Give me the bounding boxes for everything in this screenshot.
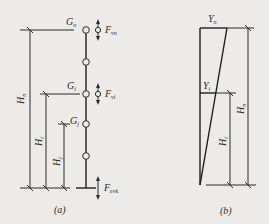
mass-node-j (83, 121, 90, 128)
mass-node-i (83, 91, 90, 98)
mass-node (83, 59, 90, 66)
dimension-label-hn: Hn (15, 94, 27, 105)
caption-a: (a) (54, 204, 66, 216)
mass-node (83, 153, 90, 160)
diagram-canvas: Gn Gi Gj Fvn Fvi Fevk Hn Hi Hj (a) (0, 0, 269, 224)
dimension-label-hj: Hj (51, 157, 63, 167)
mass-label-n: Gn (66, 16, 76, 28)
value-label-yn: Yn (208, 13, 217, 25)
panel-a: Gn Gi Gj Fvn Fvi Fevk Hn Hi Hj (a) (15, 16, 118, 216)
force-arrow-vn-icon (95, 19, 100, 41)
force-arrow-vi-icon (95, 83, 100, 105)
dimension-label-hn: Hn (235, 104, 247, 115)
mass-label-j: Gj (70, 115, 79, 127)
force-label-evk: Fevk (103, 182, 118, 194)
mass-node-n (83, 27, 90, 34)
force-label-vi: Fvi (104, 88, 116, 100)
value-label-yi: Yi (203, 80, 211, 92)
caption-b: (b) (220, 205, 232, 217)
force-label-vn: Fvn (104, 24, 117, 36)
dimension-label-hi: Hi (33, 137, 45, 147)
force-arrow-evk-icon (96, 176, 100, 200)
diagonal-edge (200, 28, 227, 185)
dimension-label-hi: Hi (217, 137, 229, 147)
dimension-ticks (227, 25, 251, 188)
mass-label-i: Gi (67, 80, 76, 92)
panel-b: Yn Yi Hi Hn (b) (200, 13, 256, 217)
